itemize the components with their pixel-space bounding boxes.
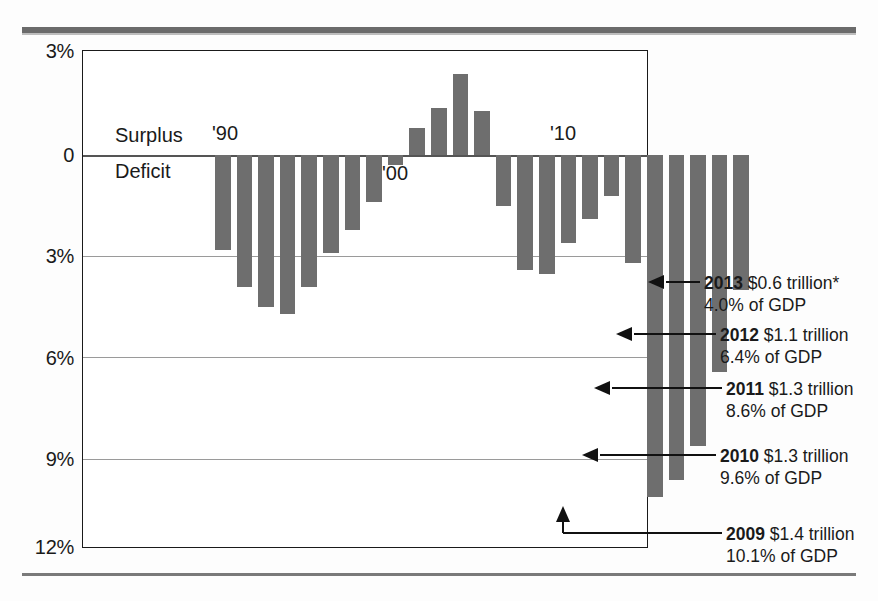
annotation-2012: 2012 $1.1 trillion 6.4% of GDP	[720, 324, 848, 368]
top-rule-shadow	[22, 33, 856, 35]
annotation-2011-pct: 8.6% of GDP	[726, 400, 853, 422]
annotation-2010: 2010 $1.3 trillion 9.6% of GDP	[720, 445, 848, 489]
bar	[496, 155, 512, 206]
bar	[409, 128, 425, 155]
annotation-2012-pct: 6.4% of GDP	[720, 346, 848, 368]
annotation-2013-pct: 4.0% of GDP	[704, 294, 839, 316]
bar	[517, 155, 533, 270]
annotation-2013: 2013 $0.6 trillion* 4.0% of GDP	[704, 272, 839, 316]
annotation-2011: 2011 $1.3 trillion 8.6% of GDP	[726, 378, 853, 422]
y-tick-12pct-deficit: 12%	[16, 536, 74, 559]
y-tick-3pct-surplus: 3%	[16, 40, 74, 63]
bar	[345, 155, 361, 230]
bar	[258, 155, 274, 307]
bar	[366, 155, 382, 202]
deficit-label: Deficit	[115, 160, 171, 183]
annotation-2009: 2009 $1.4 trillion 10.1% of GDP	[726, 523, 854, 567]
bar	[301, 155, 317, 287]
y-tick-9pct-deficit: 9%	[16, 448, 74, 471]
y-tick-6pct-deficit: 6%	[16, 347, 74, 370]
annotation-2011-year: 2011	[726, 379, 764, 399]
annotation-2009-amount: $1.4 trillion	[770, 524, 855, 544]
y-tick-zero: 0	[16, 144, 74, 167]
annotation-2013-amount: $0.6 trillion*	[748, 273, 839, 293]
annotation-list: 2013 $0.6 trillion* 4.0% of GDP 2012 $1.…	[648, 50, 878, 560]
bar	[215, 155, 231, 250]
bar	[323, 155, 339, 253]
annotation-2009-pct: 10.1% of GDP	[726, 545, 854, 567]
bar	[604, 155, 620, 196]
bar	[561, 155, 577, 243]
bar	[625, 155, 641, 263]
bottom-rule	[22, 573, 856, 576]
annotation-2010-amount: $1.3 trillion	[764, 446, 849, 466]
bar	[582, 155, 598, 219]
bar	[539, 155, 555, 274]
annotation-2012-amount: $1.1 trillion	[764, 325, 849, 345]
bar	[280, 155, 296, 314]
x-tick-2000: '00	[382, 162, 408, 185]
x-tick-1990: '90	[212, 122, 238, 145]
annotation-2010-year: 2010	[720, 446, 759, 466]
x-tick-2010: '10	[550, 122, 576, 145]
bar	[237, 155, 253, 287]
surplus-label: Surplus	[115, 124, 183, 147]
y-tick-3pct-deficit: 3%	[16, 245, 74, 268]
annotation-2012-year: 2012	[720, 325, 759, 345]
bar	[474, 111, 490, 155]
bar	[453, 74, 469, 155]
chart-page: 3% 0 3% 6% 9% 12% Surplus Deficit '90 '0…	[0, 0, 878, 601]
annotation-2010-pct: 9.6% of GDP	[720, 467, 848, 489]
annotation-2013-year: 2013	[704, 273, 743, 293]
annotation-2009-year: 2009	[726, 524, 765, 544]
annotation-2011-amount: $1.3 trillion	[769, 379, 854, 399]
bar	[431, 108, 447, 155]
